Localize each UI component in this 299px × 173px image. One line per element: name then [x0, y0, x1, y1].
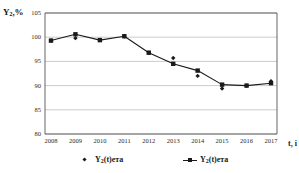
- line-square-marker-icon: [183, 156, 197, 164]
- x-tick-label: 2014: [185, 137, 211, 144]
- y-tick-label: 85: [23, 106, 41, 113]
- y-tick-label: 80: [23, 130, 41, 137]
- x-tick-label: 2016: [234, 137, 260, 144]
- x-tick-label: 2013: [160, 137, 186, 144]
- legend-item-model: Y2(t)ета: [183, 155, 228, 164]
- x-tick-label: 2010: [87, 137, 113, 144]
- chart-container: Y2,% t, і 80859095100105 200820092010201…: [0, 0, 299, 173]
- x-tick-label: 2011: [111, 137, 137, 144]
- chart-legend: Y2(t)ета Y2(t)ета: [0, 155, 299, 171]
- x-axis-title: t, і: [288, 139, 297, 148]
- x-tick-label: 2009: [62, 137, 88, 144]
- y-axis-title-suffix: ,%: [12, 7, 23, 17]
- x-tick-label: 2017: [258, 137, 284, 144]
- diamond-marker-icon: [78, 156, 92, 164]
- y-tick-label: 100: [23, 33, 41, 40]
- legend-item-actual-label: Y2(t)ета: [95, 155, 123, 164]
- y-tick-label: 105: [23, 9, 41, 16]
- legend-item-model-label: Y2(t)ета: [200, 155, 228, 164]
- plot-area: [0, 0, 299, 173]
- x-tick-label: 2008: [38, 137, 64, 144]
- y-tick-label: 90: [23, 82, 41, 89]
- x-tick-label: 2015: [209, 137, 235, 144]
- y-axis-title: Y2,%: [3, 7, 23, 17]
- y-tick-label: 95: [23, 57, 41, 64]
- x-tick-label: 2012: [136, 137, 162, 144]
- legend-item-actual: Y2(t)ета: [78, 155, 123, 164]
